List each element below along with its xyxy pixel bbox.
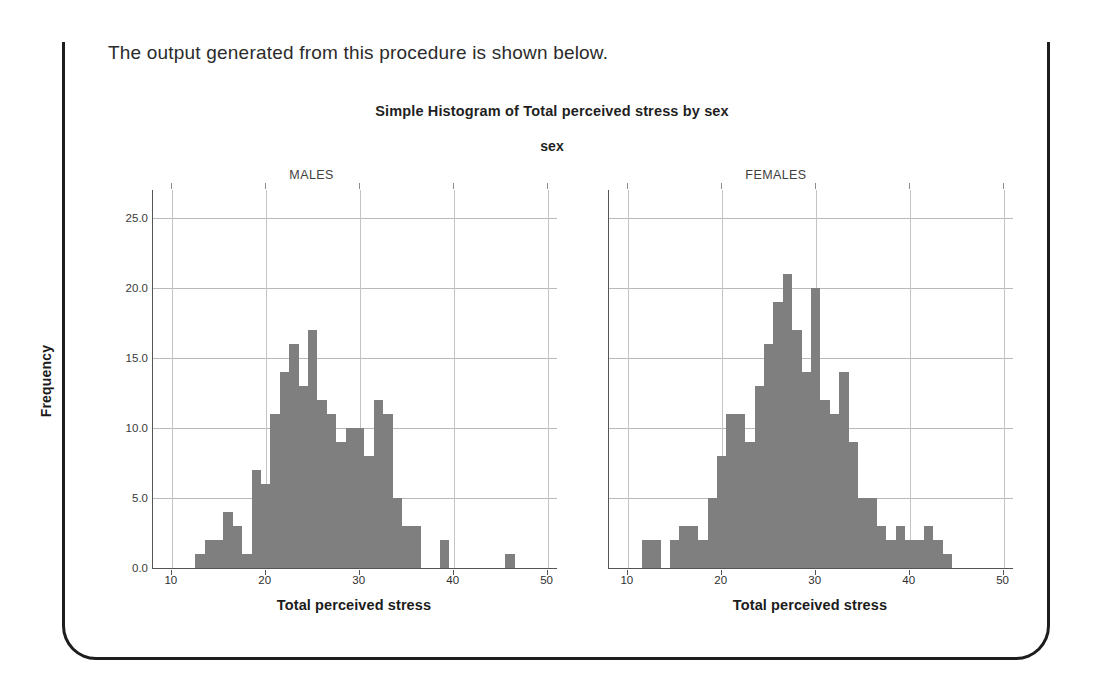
histogram-bar: [811, 288, 820, 568]
histogram-bar: [505, 554, 514, 568]
panel-top-tick: [265, 183, 266, 189]
y-tick-label: 15.0: [102, 352, 148, 364]
histogram-figure: Simple Histogram of Total perceived stre…: [0, 0, 1104, 689]
x-tick-label: 50: [540, 574, 553, 586]
y-tick-label: 25.0: [102, 212, 148, 224]
chart-title: Simple Histogram of Total perceived stre…: [0, 103, 1104, 119]
x-tick-label: 30: [352, 574, 365, 586]
y-tick-label: 5.0: [102, 492, 148, 504]
horizontal-gridline: [153, 218, 557, 219]
histogram-bar: [867, 498, 876, 568]
histogram-bar: [849, 442, 858, 568]
x-axis-tick-row: 1020304050: [608, 570, 1012, 594]
vertical-gridline: [454, 190, 455, 568]
x-axis-title-females: Total perceived stress: [608, 597, 1012, 613]
histogram-bar: [402, 526, 411, 568]
histogram-bar: [792, 330, 801, 568]
histogram-bar: [670, 540, 679, 568]
x-tick-label: 40: [902, 574, 915, 586]
histogram-bar: [689, 526, 698, 568]
histogram-bar: [773, 302, 782, 568]
y-tick-label: 0.0: [102, 562, 148, 574]
histogram-bar: [393, 498, 402, 568]
x-tick-label: 30: [808, 574, 821, 586]
histogram-bar: [355, 428, 364, 568]
vertical-gridline: [548, 190, 549, 568]
panel-top-tick: [547, 183, 548, 189]
histogram-bar: [261, 484, 270, 568]
histogram-bar: [233, 526, 242, 568]
histogram-bar: [252, 470, 261, 568]
y-tick-label: 10.0: [102, 422, 148, 434]
histogram-bar: [242, 554, 251, 568]
histogram-bar: [924, 526, 933, 568]
horizontal-gridline: [609, 218, 1013, 219]
histogram-bar: [830, 414, 839, 568]
histogram-bar: [214, 540, 223, 568]
panel-variable-title: sex: [0, 138, 1104, 154]
histogram-bar: [195, 554, 204, 568]
plot-area-males: [152, 190, 557, 569]
histogram-bar: [783, 274, 792, 568]
y-axis-title: Frequency: [38, 311, 54, 451]
histogram-bar: [802, 372, 811, 568]
histogram-bar: [943, 554, 952, 568]
histogram-bar: [205, 540, 214, 568]
panel-top-tick: [359, 183, 360, 189]
histogram-bar: [820, 400, 829, 568]
histogram-bar: [708, 498, 717, 568]
histogram-bar: [383, 414, 392, 568]
x-tick-label: 10: [164, 574, 177, 586]
x-tick-label: 50: [996, 574, 1009, 586]
histogram-bar: [764, 344, 773, 568]
x-tick-label: 20: [714, 574, 727, 586]
histogram-bar: [914, 540, 923, 568]
histogram-bar: [717, 456, 726, 568]
histogram-bar: [308, 330, 317, 568]
histogram-bar: [642, 540, 651, 568]
histogram-bar: [905, 540, 914, 568]
histogram-bar: [317, 400, 326, 568]
panel-top-tick: [721, 183, 722, 189]
x-axis-title-males: Total perceived stress: [152, 597, 556, 613]
histogram-bar: [698, 540, 707, 568]
histogram-bar: [896, 526, 905, 568]
histogram-bar: [440, 540, 449, 568]
histogram-bar: [726, 414, 735, 568]
panel-label-males: MALES: [289, 168, 333, 182]
horizontal-gridline: [153, 358, 557, 359]
panel-top-tick-row: [152, 183, 556, 190]
panel-top-tick: [815, 183, 816, 189]
panel-top-tick: [627, 183, 628, 189]
x-tick-label: 40: [446, 574, 459, 586]
histogram-bar: [745, 442, 754, 568]
histogram-bar: [839, 372, 848, 568]
histogram-bar: [651, 540, 660, 568]
vertical-gridline: [910, 190, 911, 568]
y-tick-label: 20.0: [102, 282, 148, 294]
histogram-bar: [299, 386, 308, 568]
x-tick-label: 10: [620, 574, 633, 586]
histogram-bar: [280, 372, 289, 568]
x-tick-label: 20: [258, 574, 271, 586]
histogram-bar: [679, 526, 688, 568]
vertical-gridline: [1004, 190, 1005, 568]
histogram-bar: [858, 498, 867, 568]
histogram-bar: [755, 386, 764, 568]
panel-top-tick: [1003, 183, 1004, 189]
histogram-bar: [336, 442, 345, 568]
histogram-bar: [364, 456, 373, 568]
vertical-gridline: [172, 190, 173, 568]
plot-area-females: [608, 190, 1013, 569]
panel-top-tick: [909, 183, 910, 189]
histogram-bar: [374, 400, 383, 568]
histogram-bar: [270, 414, 279, 568]
horizontal-gridline: [153, 288, 557, 289]
histogram-bar: [289, 344, 298, 568]
y-axis-tick-labels: 0.05.010.015.020.025.0: [100, 0, 148, 689]
histogram-bar: [877, 526, 886, 568]
histogram-bar: [933, 540, 942, 568]
histogram-bar: [736, 414, 745, 568]
panel-label-females: FEMALES: [745, 168, 806, 182]
histogram-bar: [327, 414, 336, 568]
